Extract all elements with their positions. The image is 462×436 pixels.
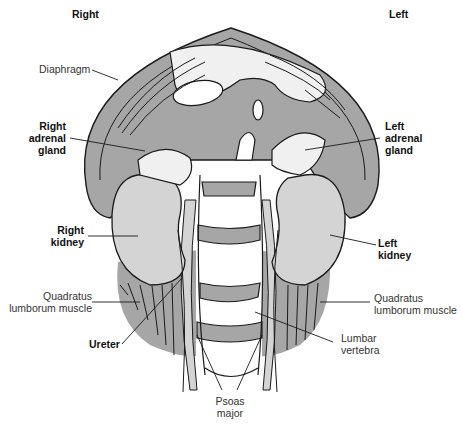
- label-right-kidney: Right kidney: [40, 224, 84, 248]
- orientation-left: Left: [389, 8, 408, 20]
- label-lumbar-vertebra: Lumbar vertebra: [341, 332, 380, 356]
- label-right-adrenal-gland: Right adrenal gland: [22, 120, 66, 156]
- label-left-adrenal-gland: Left adrenal gland: [385, 120, 422, 156]
- label-psoas-major: Psoas major: [210, 395, 250, 419]
- label-left-kidney: Left kidney: [378, 237, 411, 261]
- esophageal-opening: [253, 100, 263, 120]
- label-quadratus-left: Quadratus lumborum muscle: [374, 292, 457, 316]
- label-ureter: Ureter: [89, 338, 120, 350]
- label-diaphragm: Diaphragm: [39, 63, 90, 75]
- left-kidney-shape: [272, 175, 345, 286]
- label-quadratus-right: Quadratus lumborum muscle: [6, 290, 92, 314]
- orientation-right: Right: [72, 8, 99, 20]
